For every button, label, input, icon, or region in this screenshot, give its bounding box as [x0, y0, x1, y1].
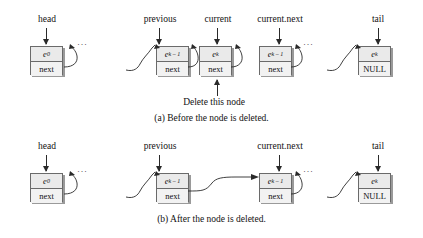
- pointer-label-current: current: [192, 14, 244, 25]
- pointer-arrow-tail: [374, 155, 383, 171]
- node-element-cell: ek – 1: [260, 47, 291, 61]
- node-body: ek – 1 next: [156, 46, 189, 75]
- link-connector-into-tail: [327, 40, 361, 72]
- link-connector-into-previous: [126, 40, 160, 72]
- node-link-cell: NULL: [359, 189, 390, 203]
- ellipsis-tailside: ···: [303, 39, 314, 49]
- panel-a-caption: (a) Before the node is deleted.: [0, 113, 423, 123]
- panel-b-caption: (b) After the node is deleted.: [0, 214, 423, 224]
- node-element-cell: ek – 1: [157, 47, 188, 61]
- node-body: e0 next: [30, 173, 63, 202]
- node-link-cell: next: [260, 62, 291, 76]
- link-connector-current-to-currentnext: [231, 40, 259, 68]
- node-link-cell: next: [260, 189, 291, 203]
- pointer-label-previous: previous: [132, 14, 188, 25]
- delete-this-node-annotation: Delete this node: [152, 97, 276, 107]
- previous-node: ek – 1 next: [156, 46, 189, 75]
- panel-after-deletion: head previous current.next tail e0 next …: [0, 130, 423, 238]
- link-connector-into-tail: [327, 167, 361, 199]
- node-link-cell: next: [31, 62, 62, 76]
- relinked-connector-previous-to-currentnext: [188, 167, 260, 195]
- ellipsis-head: ···: [77, 166, 88, 176]
- node-link-cell: next: [157, 189, 188, 203]
- pointer-arrow-current-next: [275, 28, 284, 44]
- ellipsis-head: ···: [77, 39, 88, 49]
- node-link-cell: next: [31, 189, 62, 203]
- previous-node: ek – 1 next: [156, 173, 189, 202]
- head-node: e0 next: [30, 173, 63, 202]
- node-body: ek – 1 next: [156, 173, 189, 202]
- pointer-label-tail: tail: [355, 141, 401, 152]
- node-link-cell: next: [157, 62, 188, 76]
- pointer-arrow-head: [42, 155, 51, 171]
- pointer-arrow-current: [213, 28, 222, 44]
- pointer-label-previous: previous: [132, 141, 188, 152]
- node-body: ek – 1 next: [259, 173, 292, 202]
- node-link-cell: NULL: [359, 62, 390, 76]
- node-body: ek NULL: [358, 173, 391, 202]
- tail-node: ek NULL: [358, 173, 391, 202]
- current-next-node: ek – 1 next: [259, 46, 292, 75]
- link-connector-previous-to-current: [188, 40, 214, 68]
- node-body: ek – 1 next: [259, 46, 292, 75]
- pointer-label-tail: tail: [355, 14, 401, 25]
- pointer-label-head: head: [20, 141, 74, 152]
- pointer-label-current-next: current.next: [245, 14, 315, 25]
- pointer-label-head: head: [20, 14, 74, 25]
- tail-node: ek NULL: [358, 46, 391, 75]
- node-element-cell: ek – 1: [260, 174, 291, 188]
- pointer-arrow-current-next: [275, 155, 284, 171]
- node-body: e0 next: [30, 46, 63, 75]
- pointer-label-current-next: current.next: [245, 141, 315, 152]
- head-node: e0 next: [30, 46, 63, 75]
- delete-annotation-arrow: [213, 80, 222, 96]
- node-element-cell: ek – 1: [157, 174, 188, 188]
- node-element-cell: ek: [359, 47, 390, 61]
- node-element-cell: e0: [31, 174, 62, 188]
- panel-before-deletion: head previous current current.next tail …: [0, 0, 423, 130]
- linked-list-deletion-figure: head previous current current.next tail …: [0, 0, 423, 238]
- pointer-arrow-head: [42, 28, 51, 44]
- node-element-cell: ek: [359, 174, 390, 188]
- pointer-arrow-tail: [374, 28, 383, 44]
- ellipsis-tailside: ···: [303, 166, 314, 176]
- node-body: ek NULL: [358, 46, 391, 75]
- node-element-cell: e0: [31, 47, 62, 61]
- current-next-node: ek – 1 next: [259, 173, 292, 202]
- link-connector-into-previous: [126, 167, 160, 199]
